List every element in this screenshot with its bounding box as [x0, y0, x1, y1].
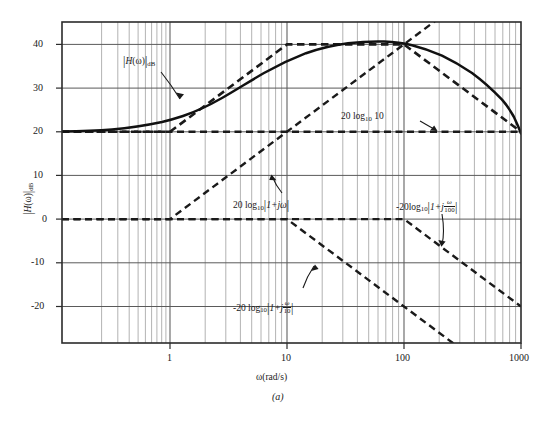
annotation-pole10-fraction: ω10: [283, 300, 291, 315]
plot-background: [62, 22, 521, 343]
annotation-pole100-expr: 1+j: [430, 202, 444, 212]
y-axis-title-H: H: [23, 206, 33, 213]
annotation-pole-omega-10: -20 log10|1+jω10|: [233, 300, 293, 315]
annotation-zero-lead: 20 log: [233, 200, 257, 210]
annotation-pole10-sub: 10: [260, 306, 267, 313]
y-tick-label-30: 30: [33, 82, 43, 93]
annotation-pole10-lead: -20 log: [233, 303, 260, 313]
x-axis-title-units: (rad/s): [262, 372, 287, 382]
annotation-pole100-fraction: ω100: [444, 199, 455, 214]
y-axis-ticks: [56, 44, 62, 306]
annotation-gain-lead: 20 log: [341, 111, 365, 121]
x-tick-label-1: 1: [167, 352, 172, 363]
figure-caption: (a): [272, 391, 284, 402]
annotation-total-sub: dB: [147, 60, 155, 67]
x-axis-ticks: [170, 343, 521, 349]
annotation-pole100-frac-den: 100: [444, 207, 455, 214]
annotation-pole100-lead: -20log: [396, 202, 421, 212]
y-axis-title-sub: dB: [27, 183, 34, 191]
annotation-zero-expr: 1+jω: [266, 200, 287, 210]
annotation-total-magnitude: |H(ω)|dB: [123, 55, 155, 67]
annotation-total-omega: (ω): [132, 56, 145, 66]
bode-plot-figure: 40 30 20 10 0 -10 -20 1 10 100 1000 |H(ω…: [0, 0, 554, 427]
figure-caption-text: (a): [272, 391, 284, 402]
y-tick-label-10: 10: [33, 169, 43, 180]
annotation-zero-omega-1: 20 log10|1+jω|: [233, 199, 289, 211]
y-axis-title-bar-close: |: [22, 191, 34, 193]
annotation-gain-sub: 10: [365, 115, 372, 122]
annotation-gain-tail: 10: [372, 111, 384, 121]
annotation-gain-20db: 20 log10 10: [341, 111, 384, 122]
x-tick-label-100: 100: [395, 352, 410, 363]
y-tick-label-minus-20: -20: [31, 300, 44, 311]
y-axis-title-omega: (ω): [23, 193, 33, 206]
annotation-pole-omega-100: -20log10|1+jω100|: [396, 199, 457, 214]
y-tick-label-40: 40: [33, 38, 43, 49]
bode-plot-canvas: [0, 0, 554, 427]
x-tick-label-10: 10: [281, 352, 291, 363]
x-tick-label-1000: 1000: [509, 352, 529, 363]
annotation-pole10-frac-den: 10: [283, 308, 291, 315]
annotation-pole10-bar-close: |: [291, 302, 293, 314]
annotation-zero-bar-close: |: [287, 199, 289, 211]
annotation-pole10-expr: 1+j: [269, 303, 283, 313]
x-axis-title: ω(rad/s): [256, 372, 287, 382]
y-tick-label-0: 0: [42, 213, 47, 224]
annotation-zero-sub: 10: [257, 204, 264, 211]
y-tick-label-minus-10: -10: [31, 256, 44, 267]
annotation-pole100-sub: 10: [421, 205, 428, 212]
y-axis-title: |H(ω)|dB: [22, 183, 34, 215]
y-tick-label-20: 20: [33, 125, 43, 136]
annotation-pole100-bar-close: |: [455, 201, 457, 213]
